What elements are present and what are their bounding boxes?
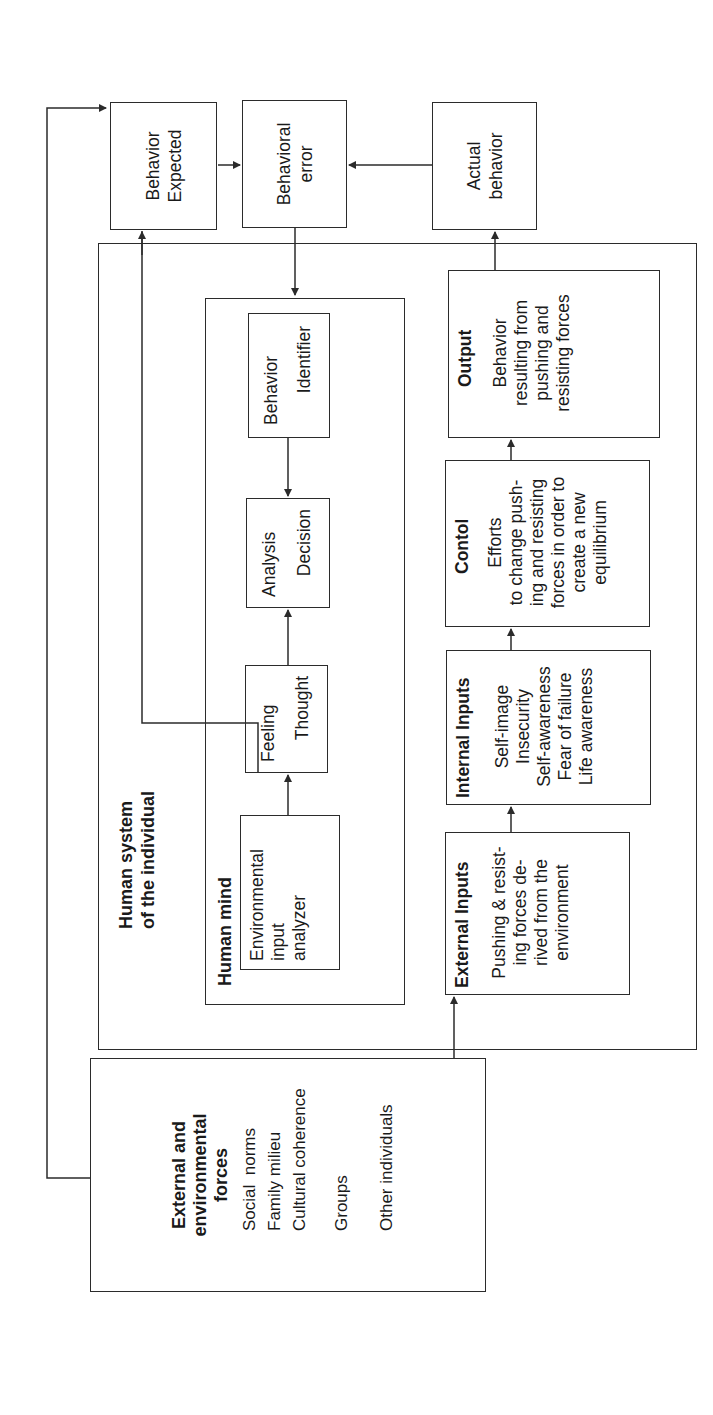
internal-inputs-body: Self-image Insecurity Self-awareness Fea…: [492, 655, 597, 798]
thought-label: Thought: [292, 666, 313, 772]
behavior-expected-label: Behavior Expected: [142, 130, 186, 203]
behavior-label: Behavior: [261, 314, 282, 437]
output-body: Behavior resulting from pushing and resi…: [490, 275, 574, 431]
feeling-label: Feeling: [258, 666, 279, 772]
analysis-decision-box: Analysis Decision: [246, 498, 330, 608]
actual-behavior-label: Actual behavior: [463, 132, 507, 199]
control-title: Contol: [452, 465, 473, 620]
output-box: Output Behavior resulting from pushing a…: [448, 270, 660, 438]
external-forces-title: External and environmental forces: [169, 1059, 232, 1291]
analysis-label: Analysis: [259, 499, 280, 607]
behavioral-error-label: Behavioral error: [273, 123, 317, 206]
feeling-thought-box: Feeling Thought: [245, 665, 328, 773]
behavior-expected-box: Behavior Expected: [110, 102, 217, 230]
external-force-item: Social norms: [239, 1128, 260, 1231]
internal-inputs-title: Internal Inputs: [453, 655, 474, 798]
diagram-canvas: External and environmental forces Social…: [0, 0, 713, 1415]
identifier-label: Identifier: [294, 314, 315, 437]
control-box: Contol Efforts to change push- ing and r…: [445, 460, 650, 627]
actual-behavior-box: Actual behavior: [432, 102, 537, 230]
output-title: Output: [455, 275, 476, 431]
control-body: Efforts to change push- ing and resistin…: [485, 465, 611, 620]
human-mind-title: Human mind: [215, 877, 236, 986]
external-inputs-body: Pushing & resist- ing forces de- rived f…: [489, 837, 573, 988]
environmental-input-analyzer-label: Environmental input analyzer: [247, 816, 310, 961]
behavioral-error-box: Behavioral error: [242, 100, 347, 228]
internal-inputs-box: Internal Inputs Self-image Insecurity Se…: [446, 650, 651, 805]
behavior-identifier-box: Behavior Identifier: [248, 313, 330, 438]
external-inputs-box: External Inputs Pushing & resist- ing fo…: [445, 832, 630, 995]
external-force-item: Other individuals: [376, 1104, 397, 1231]
external-force-item: Groups: [331, 1175, 352, 1231]
external-inputs-title: External Inputs: [452, 837, 473, 988]
decision-label: Decision: [294, 499, 315, 607]
environmental-input-analyzer-box: Environmental input analyzer: [240, 815, 340, 970]
external-force-item: Family milieu: [264, 1132, 285, 1231]
human-system-title: Human system of the individual: [115, 791, 159, 929]
external-forces-box: External and environmental forces Social…: [90, 1058, 486, 1292]
external-force-item: Cultural coherence: [289, 1088, 310, 1231]
